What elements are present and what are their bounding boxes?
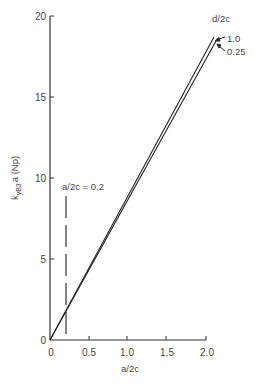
x-tick-label: 1.0 xyxy=(120,347,134,358)
chart: 20 15 10 5 0 0 0.5 1.0 1.5 2.0 a/2c kyB3… xyxy=(0,0,255,384)
legend-arrows xyxy=(215,37,225,51)
y-tick-label: 10 xyxy=(35,173,47,184)
legend-label-1.0: 1.0 xyxy=(227,33,240,44)
x-tick-label: 0 xyxy=(48,347,54,358)
y-axis-label: kyB3a (Np) xyxy=(9,156,23,200)
legend-title: d/2c xyxy=(212,13,230,24)
x-tick-label: 1.5 xyxy=(160,347,174,358)
y-tick-label: 20 xyxy=(35,11,47,22)
x-tick-label: 0.5 xyxy=(82,347,96,358)
annotation-label: a/2c = 0.2 xyxy=(62,181,104,192)
x-axis-label: a/2c xyxy=(121,363,139,374)
x-tick-label: 2.0 xyxy=(200,347,214,358)
y-tick-label: 0 xyxy=(40,335,46,346)
y-tick-label: 5 xyxy=(40,254,46,265)
legend-label-0.25: 0.25 xyxy=(227,46,246,57)
y-tick-label: 15 xyxy=(35,92,47,103)
